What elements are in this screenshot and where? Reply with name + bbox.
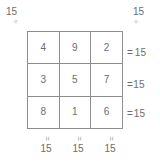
grid-cell-r1c3: 2 <box>91 32 123 64</box>
grid-cell-r2c1: 3 <box>28 64 60 96</box>
column-1-equals-icon: = <box>42 126 51 152</box>
column-2-equals-icon: = <box>74 126 83 152</box>
grid-cell-r2c2: 5 <box>60 64 92 96</box>
magic-square-figure: 15 = 15 = 4 9 2 3 5 7 8 1 6 = 15 = 15 = … <box>0 0 160 166</box>
row-1-sum-value: 15 <box>135 48 146 58</box>
row-3-equals-icon: = <box>127 109 133 119</box>
row-1-equals-icon: = <box>127 48 133 58</box>
diagonal-sum-top-right-value: 15 <box>133 7 144 17</box>
grid-cell-r1c2: 9 <box>60 32 92 64</box>
row-2-sum-value: 15 <box>133 80 144 90</box>
diagonal-equals-top-left-icon: = <box>12 18 20 26</box>
row-2-equals-icon: = <box>127 80 133 90</box>
column-sum-3: = 15 <box>97 134 123 154</box>
column-3-equals-icon: = <box>106 126 115 152</box>
magic-square-grid: 4 9 2 3 5 7 8 1 6 <box>27 31 123 129</box>
row-sum-1: = 15 <box>127 47 160 59</box>
diagonal-sum-top-right: 15 = <box>133 7 144 17</box>
column-sum-2: = 15 <box>65 134 91 154</box>
diagonal-equals-top-right-icon: = <box>132 18 140 26</box>
grid-cell-r3c1: 8 <box>28 97 60 129</box>
grid-cell-r1c1: 4 <box>28 32 60 64</box>
grid-cell-r3c3: 6 <box>91 97 123 129</box>
grid-cell-r3c2: 1 <box>60 97 92 129</box>
row-3-sum-value: 15 <box>134 109 145 119</box>
diagonal-sum-top-left: 15 = <box>6 7 17 17</box>
grid-cell-r2c3: 7 <box>91 64 123 96</box>
row-sum-3: = 15 <box>127 108 160 120</box>
diagonal-sum-top-left-value: 15 <box>6 7 17 17</box>
row-sum-2: = 15 <box>127 79 160 91</box>
column-sum-1: = 15 <box>33 134 59 154</box>
